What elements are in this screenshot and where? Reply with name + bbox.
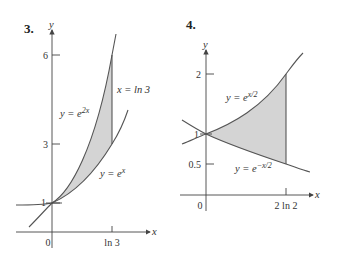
curve-label-e-x-half: y = ex/2 [225,90,257,103]
y-axis-label: y [202,39,208,50]
origin-label: 0 [46,237,51,248]
y-axis-label: y [48,19,54,30]
figure-number: 4. [186,17,196,32]
figure-number: 3. [24,21,34,36]
y-tick-label: 1 [41,197,46,208]
y-tick-label: 3 [43,139,48,150]
figure-4: 4. 2 1 0.5 2 ln 2 0 x y y = ex/2 y = e−x… [180,17,320,211]
figure-canvas: 3. 1 3 6 ln 3 0 x y y = e2x [0,0,341,257]
curve-label-e-neg-x-half: y = e−x/2 [234,161,272,174]
y-tick-label: 0.5 [189,159,202,170]
y-tick-label: 6 [43,50,48,61]
curve-label-e-x: y = ex [99,166,126,179]
x-axis-label: x [151,226,157,237]
x-axis-label: x [314,189,320,200]
y-tick-label: 2 [196,69,201,80]
boundary-label: x = ln 3 [116,84,150,95]
curve-label-e-2x: y = e2x [59,106,90,119]
figure-3: 3. 1 3 6 ln 3 0 x y y = e2x [16,19,157,248]
shaded-region-fill [52,55,112,203]
origin-label: 0 [198,200,203,211]
x-tick-label: ln 3 [104,237,119,248]
x-tick-label: 2 ln 2 [275,200,298,211]
